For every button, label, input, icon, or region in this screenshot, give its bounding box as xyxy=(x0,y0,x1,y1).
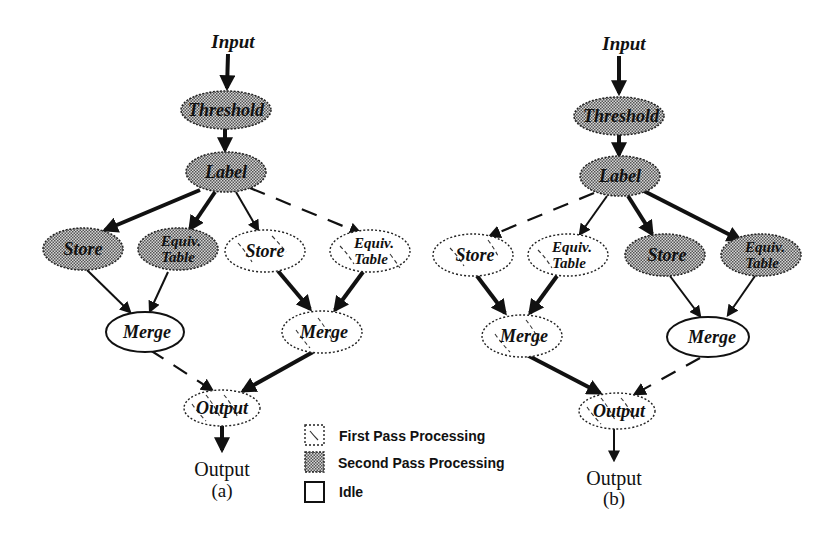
svg-text:Merge: Merge xyxy=(122,322,171,342)
edge-label-store2 xyxy=(628,196,652,234)
first-pass-swatch-icon xyxy=(305,425,324,445)
node-merge-1: Merge xyxy=(106,312,184,352)
node-store-2: Store xyxy=(625,234,705,276)
edge-store1-merge1 xyxy=(87,270,130,312)
node-equiv-table-2: Equiv. Table xyxy=(330,230,410,272)
svg-text:Table: Table xyxy=(354,251,388,267)
node-output: Output xyxy=(579,393,655,429)
edge-merge1-output xyxy=(525,354,600,393)
svg-text:Table: Table xyxy=(552,255,586,271)
svg-text:Table: Table xyxy=(745,255,779,271)
node-store-2: Store xyxy=(225,230,305,272)
svg-text:Output: Output xyxy=(196,398,249,418)
legend-item-idle: Idle xyxy=(305,482,363,502)
edge-label-store1 xyxy=(490,193,594,236)
svg-text:Equiv.: Equiv. xyxy=(744,239,785,255)
panel-b-output-label: Output xyxy=(586,467,642,490)
svg-text:Table: Table xyxy=(161,249,195,265)
panel-b-caption: (b) xyxy=(603,488,625,510)
node-merge-1: Merge xyxy=(482,315,562,357)
svg-text:Second Pass Processing: Second Pass Processing xyxy=(338,455,505,471)
svg-text:Idle: Idle xyxy=(339,484,363,500)
svg-text:Merge: Merge xyxy=(299,322,348,342)
svg-text:Output: Output xyxy=(593,401,646,421)
edge-input-threshold xyxy=(227,54,228,88)
node-equiv-table-2: Equiv. Table xyxy=(721,234,801,276)
edge-equiv1-merge1 xyxy=(150,272,168,311)
node-output: Output xyxy=(184,390,260,426)
svg-text:Store: Store xyxy=(455,245,494,265)
edge-merge2-output xyxy=(243,352,313,391)
node-equiv-table-1: Equiv. Table xyxy=(528,234,608,276)
edge-label-equiv1 xyxy=(580,196,607,234)
panel-a-caption: (a) xyxy=(211,480,232,502)
idle-swatch-icon xyxy=(305,482,324,502)
edge-equiv2-merge2 xyxy=(335,272,363,310)
pipeline-diagram: Input Threshold Label S xyxy=(0,0,832,557)
svg-text:Equiv.: Equiv. xyxy=(353,235,394,251)
edge-store2-merge2 xyxy=(670,276,700,316)
panel-a-output-label: Output xyxy=(194,458,250,481)
svg-text:Merge: Merge xyxy=(499,326,548,346)
svg-text:First Pass Processing: First Pass Processing xyxy=(339,428,485,444)
panel-a-input-label: Input xyxy=(210,31,255,52)
node-label: Label xyxy=(186,152,266,192)
svg-text:Threshold: Threshold xyxy=(583,106,660,126)
node-merge-2: Merge xyxy=(667,317,749,357)
edge-store2-merge2 xyxy=(278,271,310,309)
legend-item-first-pass: First Pass Processing xyxy=(305,425,485,445)
legend-item-second-pass: Second Pass Processing xyxy=(305,452,505,472)
panel-b: Input Threshold Label Stor xyxy=(433,33,801,510)
edge-merge1-output xyxy=(150,350,212,390)
svg-text:Equiv.: Equiv. xyxy=(551,239,592,255)
svg-text:Store: Store xyxy=(245,241,284,261)
edge-label-store1 xyxy=(105,190,200,230)
node-store-1: Store xyxy=(433,234,513,276)
legend: First Pass Processing Second Pass Proces… xyxy=(305,425,505,502)
edge-label-store2 xyxy=(236,192,258,230)
node-equiv-table-1: Equiv. Table xyxy=(138,228,218,270)
second-pass-swatch-icon xyxy=(305,452,324,472)
node-threshold: Threshold xyxy=(181,91,271,129)
node-label: Label xyxy=(580,156,660,196)
edge-label-equiv2 xyxy=(642,190,740,240)
node-store-1: Store xyxy=(43,228,123,270)
edge-store1-merge1 xyxy=(477,276,505,313)
edge-label-equiv1 xyxy=(190,192,215,229)
edge-merge2-output xyxy=(635,358,700,394)
svg-text:Equiv.: Equiv. xyxy=(160,233,201,249)
node-merge-2: Merge xyxy=(282,311,362,353)
svg-text:Label: Label xyxy=(204,162,247,182)
svg-text:Label: Label xyxy=(598,166,641,186)
edge-equiv2-merge2 xyxy=(728,276,755,315)
svg-text:Threshold: Threshold xyxy=(188,100,265,120)
node-threshold: Threshold xyxy=(574,97,664,135)
svg-text:Store: Store xyxy=(647,245,686,265)
svg-text:Merge: Merge xyxy=(687,327,736,347)
edge-label-equiv2 xyxy=(250,188,360,233)
svg-text:Store: Store xyxy=(63,239,102,259)
panel-b-input-label: Input xyxy=(601,33,646,54)
edge-equiv1-merge1 xyxy=(530,276,557,313)
